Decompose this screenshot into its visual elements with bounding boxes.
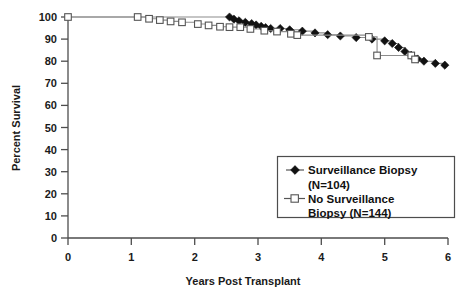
legend-label-line2: (N=104) [308, 179, 350, 191]
x-axis-title: Years Post Transplant [186, 275, 301, 287]
x-tick-label: 3 [255, 251, 261, 263]
data-point-marker [261, 27, 268, 34]
legend-label-line1: Surveillance Biopsy [308, 164, 418, 176]
data-point-marker [247, 26, 254, 33]
data-point-marker [226, 24, 233, 31]
chart-svg: 100 90 80 70 60 50 40 30 20 10 0 0 1 2 3 [0, 0, 472, 296]
legend-label-line1: No Surveillance [308, 193, 394, 205]
data-point-marker [195, 21, 202, 28]
y-tick-label: 90 [45, 33, 57, 45]
y-tick-label: 60 [45, 99, 57, 111]
legend-label-line2: Biopsy (N=144) [308, 207, 392, 219]
x-tick-label: 4 [318, 251, 325, 263]
data-point-marker [217, 23, 224, 30]
x-tick-label: 0 [65, 251, 71, 263]
data-point-marker [288, 30, 295, 37]
data-point-marker [274, 28, 281, 35]
y-tick-label: 80 [45, 55, 57, 67]
open-square-icon [291, 195, 298, 202]
data-point-marker [167, 18, 174, 25]
data-point-marker [237, 24, 244, 31]
y-tick-label: 70 [45, 77, 57, 89]
data-point-marker [412, 56, 419, 63]
x-tick-label: 6 [445, 251, 451, 263]
data-point-marker [179, 19, 186, 26]
data-point-marker [157, 17, 164, 24]
data-point-marker [205, 22, 212, 29]
data-point-marker [374, 52, 381, 59]
data-point-marker [294, 32, 301, 39]
data-point-marker [366, 34, 373, 41]
y-tick-label: 20 [45, 188, 57, 200]
data-point-marker [65, 14, 72, 21]
y-tick-label: 40 [45, 144, 57, 156]
y-tick-label: 50 [45, 122, 57, 134]
y-tick-label: 100 [39, 11, 57, 23]
x-tick-label: 1 [128, 251, 134, 263]
y-tick-label: 0 [51, 232, 57, 244]
y-axis-title: Percent Survival [10, 85, 22, 171]
y-tick-label: 30 [45, 166, 57, 178]
chart-legend: Surveillance Biopsy (N=104) No Surveilla… [278, 157, 455, 220]
x-tick-label: 5 [382, 251, 388, 263]
data-point-marker [146, 15, 153, 22]
survival-chart-figure: 100 90 80 70 60 50 40 30 20 10 0 0 1 2 3 [0, 0, 472, 296]
y-tick-label: 10 [45, 210, 57, 222]
data-point-marker [134, 14, 141, 21]
x-tick-label: 2 [192, 251, 198, 263]
